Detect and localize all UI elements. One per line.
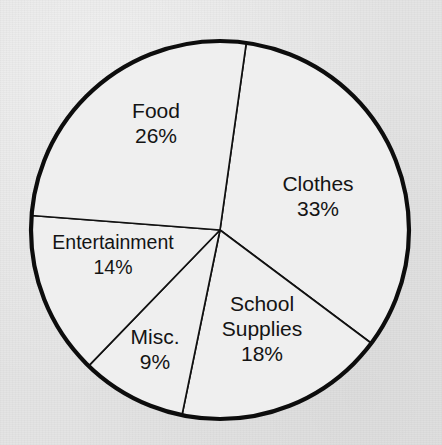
pie-chart-figure: Clothes33%SchoolSupplies18%Misc.9%Entert…: [0, 0, 442, 445]
pie-label-clothes-line-2: 33%: [297, 196, 339, 219]
pie-label-misc-line-1: Misc.: [131, 324, 180, 347]
pie-label-misc-line-2: 9%: [140, 349, 170, 372]
pie-label-entertainment-line-2: 14%: [93, 256, 132, 278]
pie-label-school-supplies-line-1: School: [230, 292, 294, 315]
pie-label-school-supplies-line-2: Supplies: [222, 317, 303, 340]
pie-label-school-supplies-line-3: 18%: [241, 342, 283, 365]
pie-label-food-line-1: Food: [132, 98, 180, 121]
pie-label-entertainment-line-1: Entertainment: [52, 231, 174, 253]
pie-label-clothes-line-1: Clothes: [282, 171, 353, 194]
pie-chart-canvas: Clothes33%SchoolSupplies18%Misc.9%Entert…: [0, 0, 442, 445]
pie-label-food-line-2: 26%: [135, 123, 177, 146]
